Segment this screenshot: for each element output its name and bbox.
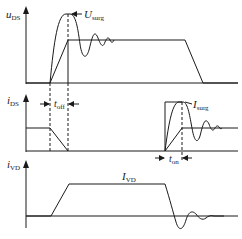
uds-surge-waveform <box>50 14 114 83</box>
ivd-axis-label: iVD <box>7 158 20 172</box>
isurg-label: Isurg <box>192 98 209 112</box>
ids-axis-arrow-icon <box>23 94 29 102</box>
uds-ideal-waveform <box>26 40 238 83</box>
ivd-waveform <box>26 184 224 229</box>
usurg-label: Usurg <box>84 8 104 22</box>
ids-axis-label: iDS <box>7 94 19 108</box>
switching-waveform-diagram: uDS Usurg iDS toff Isurg ton iVD IVD <box>0 0 242 239</box>
panel-uds <box>23 6 238 151</box>
ids-turnoff-waveform <box>26 128 68 151</box>
ivd-axis-arrow-icon <box>23 160 29 168</box>
panel-ivd <box>23 160 238 229</box>
ton-label: ton <box>169 153 179 166</box>
uds-axis-label: uDS <box>6 8 21 22</box>
toff-label: toff <box>54 98 65 111</box>
uds-axis-arrow-icon <box>23 6 29 14</box>
ivd-plateau-label: IVD <box>121 170 136 184</box>
